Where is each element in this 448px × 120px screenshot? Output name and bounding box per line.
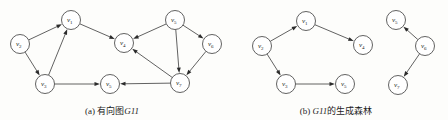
node-panel-b-v5[interactable]: v5 [336,75,355,94]
node-panel-a-v4[interactable]: v4 [115,34,134,53]
graph-figure: v1v2v3v4v5v6v7v5v1v2v3v4v5v5v6v7 [0,0,448,120]
node-panel-b-v4[interactable]: v4 [354,36,373,55]
node-panel-b-v6[interactable]: v6 [416,37,435,56]
node-panel-b-v1[interactable]: v1 [297,12,316,31]
nodes-layer: v1v2v3v4v5v6v7v5v1v2v3v4v5v5v6v7 [11,11,435,95]
edge-panel-b-v2-to-v1 [270,28,293,41]
edge-panel-b-v6-to-v5t [406,29,417,39]
caption-panel-b: (b) G11的生成森林 [224,104,448,117]
node-panel-a-v7[interactable]: v7 [171,74,190,93]
node-panel-a-v6[interactable]: v6 [203,35,222,54]
arrowhead-panel-a-v3-to-v1 [63,29,67,35]
arrowhead-panel-b-v2-to-v3 [276,70,281,76]
edge-panel-a-v7-to-v5b [124,83,170,84]
node-panel-a-v2[interactable]: v2 [11,35,30,54]
caption-a-prefix: (a) [85,106,95,116]
edge-panel-a-v7-to-v4 [135,51,172,77]
edges-layer [25,24,420,86]
node-panel-b-v5t[interactable]: v5 [387,11,406,30]
node-panel-b-v2[interactable]: v2 [253,37,272,56]
node-panel-b-v3[interactable]: v3 [277,75,296,94]
arrowhead-panel-a-v1-to-v4 [109,35,115,39]
arrowhead-panel-b-v3-to-v5 [330,82,335,86]
edge-panel-a-v5-to-v6 [183,25,200,36]
arrowhead-panel-b-v6-to-v7 [404,71,409,77]
arrowhead-panel-a-v2-to-v1 [56,24,62,28]
arrowhead-panel-a-v5-to-v7 [177,67,181,73]
figure-container: v1v2v3v4v5v6v7v5v1v2v3v4v5v5v6v7 (a) 有向图… [0,0,448,120]
edge-panel-b-v2-to-v3 [267,54,278,72]
edge-panel-b-v6-to-v7 [406,54,420,74]
caption-panel-a: (a) 有向图G11 [0,104,224,117]
node-panel-b-v7[interactable]: v7 [389,76,408,95]
node-panel-a-v5[interactable]: v5 [166,11,185,30]
edge-panel-a-v6-to-v7 [189,51,206,72]
edge-panel-b-v1-to-v4 [315,25,350,40]
arrowhead-panel-a-v7-to-v5b [120,82,125,86]
edge-panel-a-v5-to-v4 [137,24,166,37]
arrowhead-panel-a-v5-to-v4 [133,35,139,39]
caption-a-text: 有向图 [97,106,124,116]
arrowhead-panel-b-v2-to-v1 [292,26,298,30]
arrowhead-panel-b-v1-to-v4 [348,37,354,41]
node-panel-a-v3[interactable]: v3 [36,75,55,94]
node-panel-a-v5b[interactable]: v5 [101,75,120,94]
edge-panel-a-v3-to-v1 [49,33,66,75]
arrowhead-panel-a-v7-to-v4 [132,49,138,54]
caption-a-graph-name: G11 [124,106,139,116]
edge-panel-a-v1-to-v4 [80,24,111,38]
node-panel-a-v1[interactable]: v1 [62,11,81,30]
edge-panel-a-v2-to-v3 [25,52,37,72]
caption-b-prefix: (b) [300,106,311,116]
edge-panel-a-v5-to-v7 [176,29,179,68]
caption-b-text: 的生成森林 [327,106,372,116]
edge-panel-a-v2-to-v1 [29,26,59,40]
arrowhead-panel-a-v5-to-v6 [198,34,204,39]
arrowhead-panel-a-v2-to-v3 [35,70,40,76]
arrowhead-panel-a-v3-to-v5b [95,82,100,86]
caption-b-graph-name: G11 [312,106,327,116]
